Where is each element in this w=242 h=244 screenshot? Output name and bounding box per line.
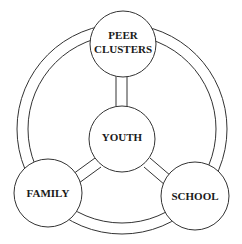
- peer-cluster-diagram: PEER CLUSTERS YOUTH FAMILY SCHOOL: [0, 0, 242, 244]
- peer-label-line1: PEER: [108, 29, 138, 41]
- school-label: SCHOOL: [171, 190, 218, 202]
- node-youth: YOUTH: [89, 106, 155, 172]
- peer-label-line2: CLUSTERS: [94, 43, 152, 55]
- youth-label: YOUTH: [102, 131, 143, 143]
- node-school: SCHOOL: [161, 162, 229, 230]
- node-family: FAMILY: [14, 159, 82, 227]
- node-peer-clusters: PEER CLUSTERS: [90, 11, 156, 77]
- family-label: FAMILY: [27, 187, 70, 199]
- connector-youth-peer: [116, 76, 127, 108]
